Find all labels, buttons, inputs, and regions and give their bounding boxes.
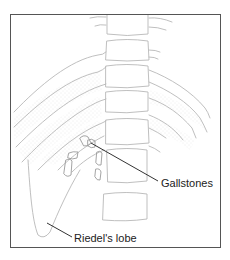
- anatomy-illustration: [0, 0, 230, 260]
- stipple-left: [14, 70, 102, 165]
- vertebrae: [103, 15, 149, 221]
- gallstones-label: Gallstones: [161, 178, 213, 189]
- riedels-lobe-label: Riedel's lobe: [74, 233, 137, 244]
